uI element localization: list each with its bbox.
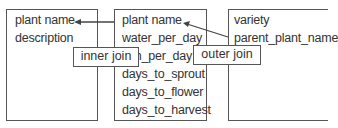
inner-join-label: inner join [73, 47, 139, 67]
outer-join-label: outer join [193, 45, 261, 65]
